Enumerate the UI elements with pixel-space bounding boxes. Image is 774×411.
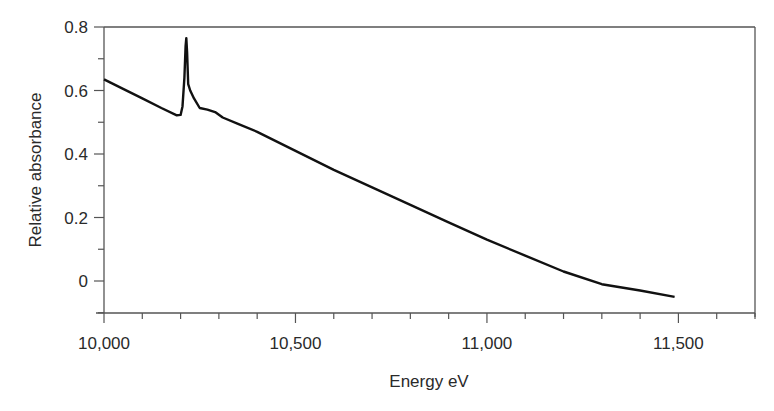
y-tick-label: 0.6: [64, 82, 88, 101]
x-tick-label: 11,000: [462, 334, 513, 353]
y-axis-title: Relative absorbance: [26, 93, 45, 248]
y-tick-label: 0.8: [64, 18, 88, 37]
spectrum-line: [104, 38, 675, 297]
y-tick-label: 0.4: [64, 145, 88, 164]
x-tick-label: 11,500: [653, 334, 704, 353]
absorbance-chart: 00.20.40.60.8 10,00010,50011,00011,500 E…: [0, 0, 774, 411]
x-tick-label: 10,000: [78, 334, 130, 353]
x-tick-label: 10,500: [269, 334, 321, 353]
y-tick-label: 0: [79, 272, 88, 291]
plot-frame: [96, 27, 755, 317]
x-axis-title: Energy eV: [389, 372, 469, 391]
y-axis: 00.20.40.60.8: [64, 18, 104, 313]
y-tick-label: 0.2: [64, 209, 88, 228]
x-axis: 10,00010,50011,00011,500: [78, 313, 755, 353]
